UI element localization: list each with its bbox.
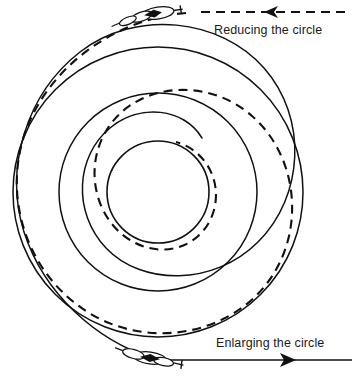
reducing-arrow-group	[200, 6, 345, 18]
reducing-arrow-head	[264, 6, 278, 18]
glider-bottom-icon	[113, 346, 184, 369]
glider-bottom-nose	[115, 348, 123, 351]
flight-path-diagram: Reducing the circle Enlarging the circle	[0, 0, 357, 377]
glider-top-nose	[111, 23, 119, 26]
glider-bottom-wing-left	[122, 347, 146, 361]
glider-top-tailplane	[180, 5, 181, 13]
reducing-spiral-group	[17, 13, 292, 333]
diagram-canvas	[0, 0, 357, 377]
middle-circle	[59, 93, 257, 291]
label-enlarging-the-circle: Enlarging the circle	[216, 336, 324, 350]
glider-bottom-tailplane	[181, 360, 182, 369]
reducing-spiral	[17, 13, 292, 333]
inner-circle	[107, 141, 209, 243]
label-reducing-the-circle: Reducing the circle	[214, 23, 322, 37]
